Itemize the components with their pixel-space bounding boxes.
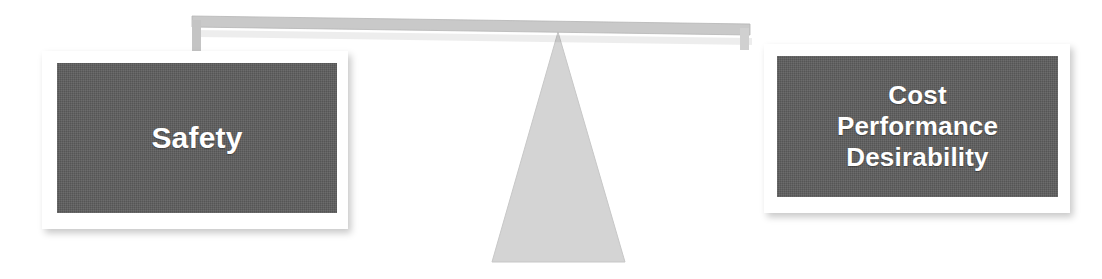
right-pan-plate: Cost Performance Desirability	[777, 56, 1058, 197]
balance-scale-diagram: Safety Cost Performance Desirability	[0, 0, 1102, 279]
left-pan: Safety	[42, 51, 348, 229]
right-pan-label: Cost Performance Desirability	[837, 80, 998, 172]
right-pan: Cost Performance Desirability	[764, 44, 1070, 213]
right-hanger-rod	[740, 28, 749, 50]
right-pan-label-line-3: Desirability	[837, 142, 998, 173]
left-hanger-rod	[192, 20, 201, 53]
right-pan-label-line-2: Performance	[837, 111, 998, 142]
left-pan-plate: Safety	[57, 63, 337, 213]
left-pan-label: Safety	[151, 120, 242, 155]
right-pan-label-line-1: Cost	[837, 80, 998, 111]
